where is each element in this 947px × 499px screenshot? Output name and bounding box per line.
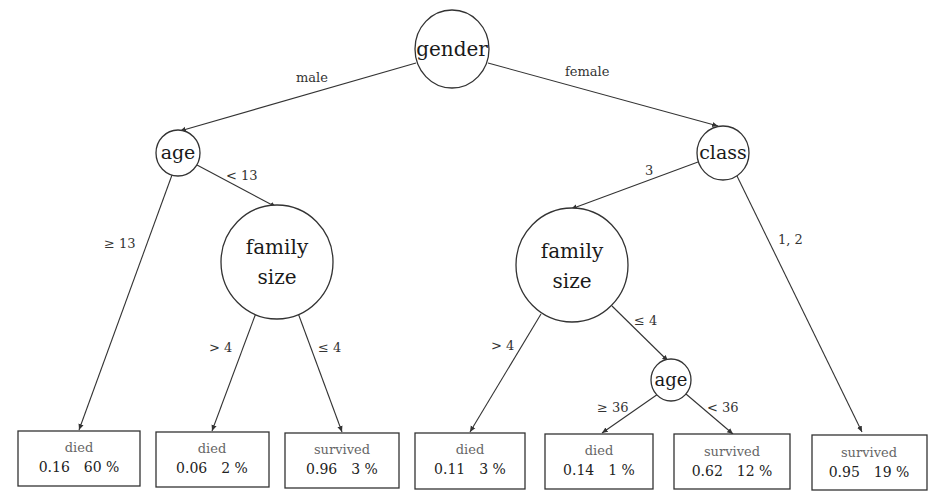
leaf-pct: 19 %	[874, 464, 910, 480]
edge-label-female: female	[565, 64, 610, 79]
leaf-pct: 12 %	[737, 463, 773, 479]
leaf-pct: 3 %	[351, 461, 378, 477]
node-family-size-left: family size	[221, 205, 333, 319]
node-label-family-left-1: family	[246, 235, 309, 259]
leaf-pct: 60 %	[84, 459, 120, 475]
edge-fam-right-gt4	[470, 314, 541, 432]
leaf-class: died	[456, 442, 485, 457]
node-label-family-left-2: size	[257, 265, 296, 289]
leaf-prob: 0.11	[434, 461, 465, 477]
decision-tree-diagram: male female ≥ 13 < 13 > 4 ≤ 4 3 1, 2 > 4…	[0, 0, 947, 499]
leaf-pct: 2 %	[221, 460, 248, 476]
node-age-female: age	[651, 359, 691, 401]
leaf-class: survived	[841, 445, 897, 460]
leaf-class: survived	[704, 444, 760, 459]
edge-label-class-3: 3	[645, 163, 653, 178]
node-label-age-female: age	[655, 369, 688, 390]
leaf-class: survived	[314, 442, 370, 457]
leaf-class: died	[585, 443, 614, 458]
leaf-pct: 1 %	[608, 462, 635, 478]
node-class: class	[697, 126, 749, 180]
node-label-family-right-1: family	[541, 239, 604, 263]
edge-fam-left-gt4	[212, 313, 256, 431]
edge-label-fam-left-gt4: > 4	[209, 340, 232, 355]
node-age-male: age	[156, 130, 200, 176]
node-label-class: class	[699, 141, 747, 163]
leaf-6: survived 0.6212 %	[674, 434, 790, 489]
node-gender: gender	[415, 10, 489, 88]
leaf-5: died 0.141 %	[545, 434, 653, 489]
edge-fam-left-le4	[298, 313, 342, 432]
node-label-gender: gender	[416, 37, 488, 61]
leaf-pct: 3 %	[479, 461, 506, 477]
edge-label-fam-right-le4: ≤ 4	[634, 313, 657, 328]
edges	[79, 63, 862, 434]
edge-label-fam-left-le4: ≤ 4	[318, 340, 341, 355]
edge-label-age-lt36: < 36	[707, 400, 739, 415]
leaf-prob: 0.95	[829, 464, 860, 480]
leaf-prob: 0.16	[39, 459, 70, 475]
leaf-3: survived 0.963 %	[285, 433, 399, 488]
node-family-size-right: family size	[516, 208, 628, 322]
edge-labels: male female ≥ 13 < 13 > 4 ≤ 4 3 1, 2 > 4…	[104, 64, 803, 415]
edge-class-3	[571, 162, 698, 209]
leaf-class: died	[198, 441, 227, 456]
edge-age-ge13	[79, 175, 172, 430]
node-label-age-male: age	[161, 141, 196, 163]
leaf-prob: 0.62	[692, 463, 723, 479]
leaf-1: died 0.1660 %	[18, 431, 140, 486]
edge-label-age-ge13: ≥ 13	[104, 236, 136, 251]
edge-label-male: male	[296, 70, 328, 85]
edge-class-12	[737, 176, 862, 432]
leaf-prob: 0.06	[176, 460, 207, 476]
leaf-class: died	[65, 440, 94, 455]
edge-label-fam-right-gt4: > 4	[491, 338, 514, 353]
leaf-7: survived 0.9519 %	[812, 435, 927, 490]
leaf-2: died 0.062 %	[156, 432, 269, 487]
edge-label-age-ge36: ≥ 36	[597, 400, 629, 415]
leaf-4: died 0.113 %	[415, 433, 525, 489]
leaf-prob: 0.14	[563, 462, 594, 478]
leaf-prob: 0.96	[306, 461, 337, 477]
edge-label-class-12: 1, 2	[778, 232, 803, 247]
node-label-family-right-2: size	[552, 269, 591, 293]
edge-label-age-lt13: < 13	[226, 168, 258, 183]
